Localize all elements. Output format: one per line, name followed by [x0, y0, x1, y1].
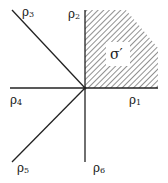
- label-rho2-base: ρ: [68, 7, 75, 21]
- origin-point: [84, 87, 87, 90]
- label-rho1-index: 1: [136, 98, 141, 107]
- fan-diagram: [0, 0, 168, 183]
- label-rho5-base: ρ: [17, 161, 24, 175]
- label-rho3: ρ3: [22, 6, 34, 19]
- label-rho4-base: ρ: [10, 93, 17, 107]
- cone-label-sigma-prime: σ′: [110, 47, 123, 61]
- label-rho3-index: 3: [29, 10, 34, 19]
- ray-rho3: [12, 10, 85, 88]
- label-rho3-base: ρ: [22, 5, 29, 19]
- label-rho5: ρ5: [17, 162, 29, 175]
- label-rho6-index: 6: [100, 166, 105, 175]
- ray-rho5: [12, 88, 85, 162]
- label-rho1: ρ1: [129, 94, 141, 107]
- label-rho4-index: 4: [17, 98, 22, 107]
- label-rho2-index: 2: [75, 12, 80, 21]
- label-rho1-base: ρ: [129, 93, 136, 107]
- label-rho6-base: ρ: [93, 161, 100, 175]
- label-rho4: ρ4: [10, 94, 22, 107]
- label-rho2: ρ2: [68, 8, 80, 21]
- label-rho5-index: 5: [24, 166, 29, 175]
- label-rho6: ρ6: [93, 162, 105, 175]
